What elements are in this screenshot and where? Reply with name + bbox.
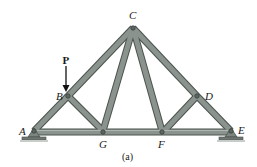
load-arrow xyxy=(63,66,70,92)
node-label-F: F xyxy=(157,138,165,150)
node-label-B: B xyxy=(56,90,63,102)
joint-D xyxy=(195,94,199,98)
node-label-E: E xyxy=(237,124,245,136)
node-label-A: A xyxy=(18,125,26,137)
joint-C xyxy=(131,26,135,30)
joint-A xyxy=(32,129,36,133)
load-label-P: P xyxy=(63,54,70,66)
figure-caption: (a) xyxy=(122,151,133,163)
node-label-D: D xyxy=(204,90,213,102)
truss-diagram: P A B C D E G F (a) xyxy=(0,0,257,167)
joint-F xyxy=(160,130,164,134)
truss-members xyxy=(34,28,231,132)
joint-G xyxy=(101,130,105,134)
node-label-C: C xyxy=(129,9,137,21)
joint-E xyxy=(229,129,233,133)
joint-B xyxy=(66,94,70,98)
node-label-G: G xyxy=(99,138,107,150)
